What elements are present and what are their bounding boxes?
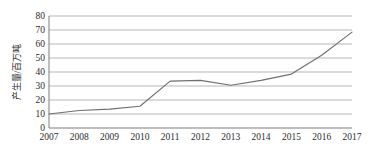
y-tick-label-10: 10 xyxy=(36,109,46,119)
y-tick-label-70: 70 xyxy=(36,25,46,35)
chart-canvas: 01020304050607080 2007200820092010201120… xyxy=(0,0,369,154)
y-tick-label-30: 30 xyxy=(36,81,46,91)
x-tick-label-2012: 2012 xyxy=(191,132,210,142)
y-tick-label-20: 20 xyxy=(36,95,46,105)
x-tick-label-2011: 2011 xyxy=(161,132,180,142)
y-axis-title-text: 产生量/百万吨 xyxy=(11,44,22,101)
x-tick-label-2015: 2015 xyxy=(282,132,301,142)
y-axis-tick-labels: 01020304050607080 xyxy=(36,11,46,133)
data-series-line xyxy=(49,32,352,114)
y-tick-label-50: 50 xyxy=(36,53,46,63)
x-tick-label-2007: 2007 xyxy=(40,132,59,142)
x-tick-label-2010: 2010 xyxy=(130,132,149,142)
x-tick-label-2009: 2009 xyxy=(100,132,119,142)
x-tick-label-2016: 2016 xyxy=(312,132,331,142)
series-line-path xyxy=(49,32,352,114)
x-tick-label-2013: 2013 xyxy=(221,132,240,142)
x-tick-label-2008: 2008 xyxy=(70,132,89,142)
x-tick-label-2017: 2017 xyxy=(343,132,362,142)
x-tick-label-2014: 2014 xyxy=(252,132,271,142)
y-tick-label-40: 40 xyxy=(36,67,46,77)
y-axis-title: 产生量/百万吨 xyxy=(11,44,22,101)
line-chart-figure: 01020304050607080 2007200820092010201120… xyxy=(0,0,369,154)
y-tick-label-80: 80 xyxy=(36,11,46,21)
x-axis-tick-labels: 2007200820092010201120122013201420152016… xyxy=(40,132,362,142)
y-tick-label-60: 60 xyxy=(36,39,46,49)
